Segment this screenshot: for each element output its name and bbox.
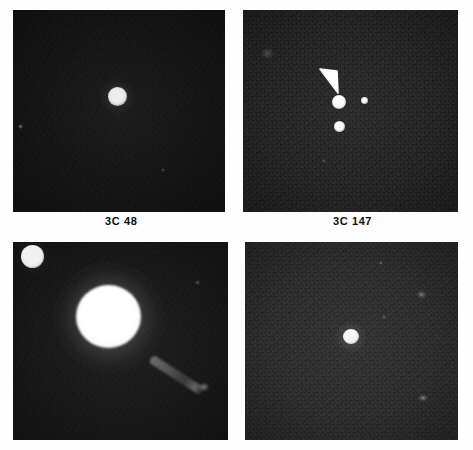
source-faint-star-left <box>18 124 23 129</box>
panel-3c147[interactable] <box>243 10 458 212</box>
source-quasar-halo <box>99 78 136 115</box>
film-grain-texture <box>243 10 458 212</box>
source-faint-star-mid-right <box>382 315 386 319</box>
vignette-overlay <box>245 242 458 440</box>
panel-unlabeled-lower-right[interactable] <box>245 242 458 440</box>
source-quasar-core <box>343 329 359 344</box>
source-companion-below <box>334 121 345 132</box>
source-companion-right <box>361 97 368 104</box>
film-grain-texture <box>13 10 225 212</box>
source-quasar-halo-outer <box>53 262 165 372</box>
source-faint-smudge-upper-left <box>261 48 274 59</box>
source-faint-galaxy-upper-right <box>416 290 427 299</box>
source-quasar-core <box>332 95 346 109</box>
panel-3c273[interactable] <box>13 242 228 440</box>
source-faint-star-lower <box>161 168 165 172</box>
optical-jet-knot <box>199 383 209 391</box>
optical-jet <box>149 355 206 396</box>
source-quasar-core <box>76 285 141 348</box>
source-faint-object-lower-right <box>417 394 429 402</box>
vignette-overlay <box>13 10 225 212</box>
film-grain-texture <box>245 242 458 440</box>
source-faint-star-top <box>379 261 383 265</box>
source-faint-star-mid <box>322 159 326 163</box>
source-quasar-halo <box>335 321 367 353</box>
panel-3c48[interactable] <box>13 10 225 212</box>
vignette-overlay <box>13 242 228 440</box>
panel-label-3c147: 3C 147 <box>333 215 372 227</box>
source-foreground-star-halo <box>14 242 52 276</box>
source-quasar-core <box>108 87 127 106</box>
source-foreground-star <box>21 245 44 268</box>
vignette-overlay <box>243 10 458 212</box>
film-grain-texture <box>13 242 228 440</box>
panel-label-3c48: 3C 48 <box>105 215 137 227</box>
source-faint-star-right <box>195 280 200 285</box>
annotation-arrow-icon <box>317 66 353 100</box>
